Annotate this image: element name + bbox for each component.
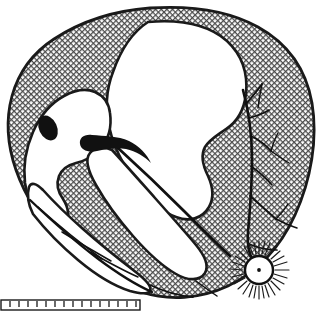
scale-bar-frame bbox=[1, 300, 140, 310]
scale-bar bbox=[1, 300, 140, 310]
disc-marker-centre-dot bbox=[257, 268, 261, 272]
figure-canvas: Stippled anatomical cross-section with v… bbox=[0, 0, 323, 311]
anatomical-section-drawing bbox=[0, 0, 323, 311]
